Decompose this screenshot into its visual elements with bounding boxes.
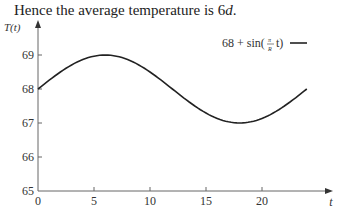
svg-text:20: 20 <box>256 194 268 208</box>
svg-text:t: t <box>329 195 333 209</box>
svg-text:0: 0 <box>35 194 41 208</box>
legend-frac-den: R <box>267 46 272 52</box>
svg-text:66: 66 <box>22 150 34 164</box>
svg-text:69: 69 <box>22 48 34 62</box>
legend: 68 + sin( π R t) <box>222 36 307 52</box>
svg-text:68: 68 <box>22 82 34 96</box>
svg-text:5: 5 <box>91 194 97 208</box>
svg-text:65: 65 <box>22 184 34 198</box>
data-line <box>38 55 307 123</box>
svg-text:10: 10 <box>144 194 156 208</box>
svg-text:15: 15 <box>200 194 212 208</box>
temperature-chart: 051015206566676869tT(t) 68 + sin( π R t) <box>0 0 345 219</box>
legend-tail: t) <box>276 36 283 50</box>
svg-text:T(t): T(t) <box>4 21 21 34</box>
svg-text:67: 67 <box>22 116 34 130</box>
axes: 051015206566676869tT(t) <box>4 20 333 209</box>
legend-label: 68 + sin( <box>222 36 265 50</box>
legend-frac-num: π <box>268 37 272 43</box>
